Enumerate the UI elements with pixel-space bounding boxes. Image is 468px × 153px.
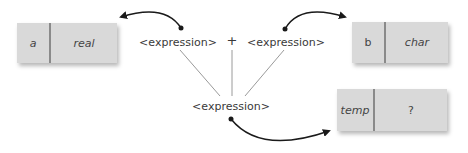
variable-box-b: b char — [352, 22, 448, 63]
expression-result: <expression> — [192, 100, 270, 113]
arrow-origin-dot-left — [179, 26, 184, 31]
variable-name: b — [352, 22, 384, 63]
arrow-origin-dot-bottom — [229, 117, 234, 122]
arrow-to-b — [285, 12, 345, 29]
expression-right: <expression> — [247, 36, 325, 49]
plus-operator: + — [227, 33, 238, 48]
variable-name: a — [17, 23, 49, 63]
variable-type: ? — [375, 89, 447, 131]
variable-type: char — [386, 22, 448, 63]
arrow-origin-dot-right — [283, 27, 288, 32]
variable-name: temp — [337, 89, 373, 131]
tree-line-left — [180, 50, 220, 96]
expression-left: <expression> — [139, 36, 217, 49]
variable-box-a: a real — [17, 23, 117, 63]
variable-box-temp: temp ? — [337, 89, 447, 131]
tree-line-right — [245, 50, 284, 96]
arrow-to-temp — [231, 119, 329, 141]
variable-type: real — [51, 23, 117, 63]
arrow-to-a — [121, 12, 181, 28]
